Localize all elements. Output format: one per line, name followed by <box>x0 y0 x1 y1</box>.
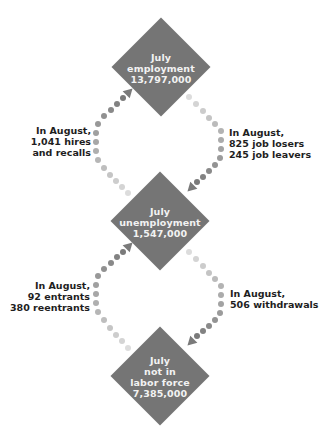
withdrawals-label: In August, 506 withdrawals <box>230 288 318 310</box>
losers-label-line3: 245 job leavers <box>229 149 311 160</box>
entrants-label-line3: 380 reentrants <box>10 302 90 313</box>
nilf-label-line3: labor force <box>110 377 210 388</box>
hires-path-dot <box>101 165 107 171</box>
entrants-path-dot <box>107 325 113 331</box>
losers-label-line1: In August, <box>229 127 311 138</box>
losers-path-dot <box>200 174 206 180</box>
entrants-path-dot <box>93 282 99 288</box>
unemployment-label-line2: unemployment <box>110 217 210 228</box>
losers-path-dot <box>212 121 218 127</box>
hires-label-line1: In August, <box>31 125 91 136</box>
employment-value: 13,797,000 <box>111 74 211 85</box>
withdrawals-label-line1: In August, <box>230 288 318 299</box>
withdrawals-path-dot <box>212 317 218 323</box>
employment-label: July employment 13,797,000 <box>111 52 211 85</box>
employment-label-line1: July <box>111 52 211 63</box>
losers-path-dot <box>206 168 212 174</box>
losers-path-dot <box>193 101 199 107</box>
nilf-label-line2: not in <box>110 366 210 377</box>
entrants-path-dot <box>114 254 120 260</box>
withdrawals-label-line2: 506 withdrawals <box>230 299 318 310</box>
not-in-labor-force-label: July not in labor force 7,385,000 <box>110 355 210 399</box>
entrants-path-dot <box>95 309 101 315</box>
entrants-path-dot <box>120 249 126 255</box>
hires-path-dot <box>119 184 125 190</box>
employment-label-line2: employment <box>111 63 211 74</box>
withdrawals-path-dot <box>206 270 212 276</box>
entrants-path-dot <box>119 338 125 344</box>
withdrawals-path-dot <box>193 256 199 262</box>
losers-path-dot <box>206 115 212 121</box>
withdrawals-path-dot <box>200 328 206 334</box>
withdrawals-path-dot <box>218 283 224 289</box>
withdrawals-path-dot <box>200 263 206 269</box>
entrants-path-dot <box>93 291 99 297</box>
withdrawals-path-dot <box>194 333 200 339</box>
hires-path-dot <box>107 172 113 178</box>
losers-path-dot <box>186 94 192 100</box>
withdrawals-path-dot <box>218 292 224 298</box>
withdrawals-path-dot <box>206 323 212 329</box>
labor-flow-diagram: July employment 13,797,000 July unemploy… <box>0 0 326 443</box>
hires-label-line3: and recalls <box>31 147 91 158</box>
entrants-path-dot <box>95 273 101 279</box>
hires-label-line2: 1,041 hires <box>31 136 91 147</box>
entrants-path-dot <box>93 300 99 306</box>
entrants-path-dot <box>101 317 107 323</box>
losers-path-dot <box>218 146 224 152</box>
nilf-value: 7,385,000 <box>110 388 210 399</box>
entrants-label-line1: In August, <box>10 280 90 291</box>
entrants-label-line2: 92 entrants <box>10 291 90 302</box>
entrants-path-dot <box>101 266 107 272</box>
withdrawals-path-dot <box>217 310 223 316</box>
unemployment-label-line1: July <box>110 206 210 217</box>
hires-path-dot <box>125 190 131 196</box>
losers-path-dot <box>194 179 200 185</box>
hires-path-dot <box>95 121 101 127</box>
hires-path-dot <box>93 130 99 136</box>
hires-path-dot <box>93 148 99 154</box>
losers-path-dot <box>218 137 224 143</box>
losers-label-line2: 825 job losers <box>229 138 311 149</box>
entrants-path-dot <box>113 332 119 338</box>
hires-path-dot <box>108 107 114 113</box>
job-losers-leavers-label: In August, 825 job losers 245 job leaver… <box>229 127 311 160</box>
withdrawals-path-dot <box>212 276 218 282</box>
withdrawals-path-dot <box>218 301 224 307</box>
nilf-label-line1: July <box>110 355 210 366</box>
withdrawals-path-dot <box>186 249 192 255</box>
losers-path-dot <box>212 162 218 168</box>
entrants-path-dot <box>108 260 114 266</box>
hires-path-dot <box>120 95 126 101</box>
entrants-reentrants-label: In August, 92 entrants 380 reentrants <box>10 280 90 313</box>
losers-path-dot <box>217 155 223 161</box>
hires-path-dot <box>113 178 119 184</box>
losers-path-dot <box>218 128 224 134</box>
hires-path-dot <box>114 101 120 107</box>
unemployment-value: 1,547,000 <box>110 228 210 239</box>
losers-path-dot <box>200 108 206 114</box>
entrants-path-dot <box>125 345 131 351</box>
hires-path-dot <box>101 113 107 119</box>
hires-path-dot <box>93 139 99 145</box>
hires-recalls-label: In August, 1,041 hires and recalls <box>31 125 91 158</box>
hires-path-dot <box>95 157 101 163</box>
unemployment-label: July unemployment 1,547,000 <box>110 206 210 239</box>
